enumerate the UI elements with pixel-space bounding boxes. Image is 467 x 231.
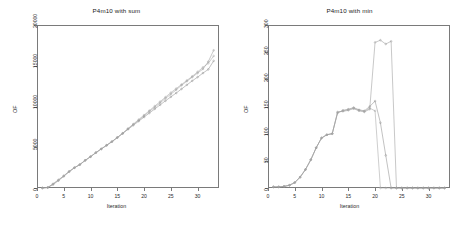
series-group-sum: [0, 0, 233, 231]
figure-canvas: P4m10 with sum 0500010000150002000005101…: [0, 0, 467, 231]
x-axis-title-min: Iteration: [233, 203, 466, 209]
chart-panel-sum: P4m10 with sum 0500010000150002000005101…: [0, 0, 233, 231]
series-line: [273, 101, 444, 188]
series-group-min: [233, 0, 466, 231]
series-line: [42, 50, 213, 188]
series-line: [273, 108, 444, 188]
series-line: [42, 56, 213, 188]
y-axis-title-sum: OF: [12, 105, 18, 113]
chart-panel-min: P4m10 with min 0501001502002503000510152…: [233, 0, 466, 231]
y-axis-title-min: OF: [243, 105, 249, 113]
series-line: [273, 40, 444, 188]
x-axis-title-sum: Iteration: [0, 203, 233, 209]
